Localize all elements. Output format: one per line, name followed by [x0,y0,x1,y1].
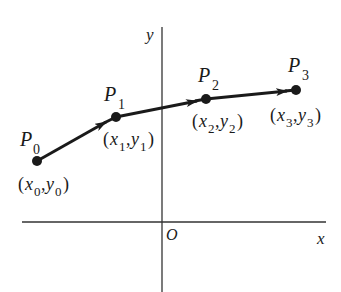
svg-text:0: 0 [55,184,62,199]
svg-text:): ) [148,129,154,150]
svg-text:2: 2 [208,121,215,136]
svg-text:y: y [218,111,228,131]
x-axis-label: x [316,229,325,248]
svg-text:P: P [103,83,116,105]
svg-text:x: x [276,105,285,125]
svg-text:P: P [19,128,32,150]
polyline-diagram: y x O P 0 P 1 P 2 P 3 ( x 0 , y 0 [0,0,341,292]
coord-p2: ( x 2 , y 2 ) [192,111,243,136]
svg-text:2: 2 [229,121,236,136]
svg-text:x: x [24,174,33,194]
svg-text:P: P [287,54,300,76]
svg-text:3: 3 [307,115,314,130]
svg-text:y: y [44,174,54,194]
svg-text:2: 2 [212,78,219,93]
svg-text:0: 0 [34,184,41,199]
svg-text:x: x [198,111,207,131]
svg-text:(: ( [18,174,24,195]
svg-text:(: ( [270,105,276,126]
point-p0 [32,156,42,166]
svg-text:,: , [126,129,131,149]
coord-p3: ( x 3 , y 3 ) [270,105,321,130]
svg-text:3: 3 [302,68,309,83]
svg-text:P: P [197,64,210,86]
coord-p0: ( x 0 , y 0 ) [18,174,69,199]
svg-text:0: 0 [33,142,40,157]
y-axis-label: y [144,25,154,44]
svg-text:): ) [63,174,69,195]
svg-text:1: 1 [140,139,147,154]
svg-text:,: , [41,174,46,194]
svg-text:3: 3 [286,115,293,130]
svg-text:y: y [129,129,139,149]
point-p2 [201,94,211,104]
segment-p2-p3 [206,90,296,99]
coord-p1: ( x 1 , y 1 ) [103,129,154,154]
label-p1: P 1 [103,83,125,112]
label-p2: P 2 [197,64,219,93]
svg-text:x: x [109,129,118,149]
svg-text:(: ( [192,111,198,132]
label-p0: P 0 [19,128,40,157]
svg-text:,: , [293,105,298,125]
svg-text:y: y [296,105,306,125]
svg-text:,: , [215,111,220,131]
svg-text:): ) [315,105,321,126]
svg-text:(: ( [103,129,109,150]
svg-text:): ) [237,111,243,132]
origin-label: O [166,226,178,243]
point-p1 [111,112,121,122]
svg-text:1: 1 [118,97,125,112]
svg-text:1: 1 [119,139,126,154]
point-p3 [291,85,301,95]
label-p3: P 3 [287,54,309,83]
